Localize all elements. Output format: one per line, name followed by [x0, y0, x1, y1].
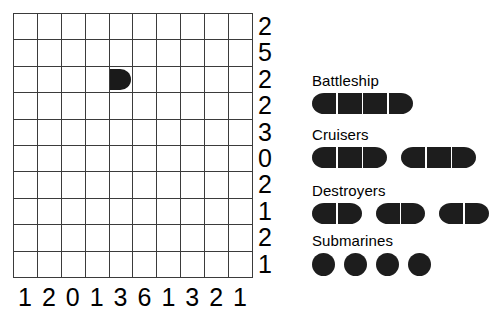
grid-cell-r5-c8[interactable] [205, 145, 229, 171]
grid-cell-r0-c5[interactable] [133, 14, 157, 40]
grid-cell-r8-c1[interactable] [37, 225, 61, 251]
grid-cell-r7-c5[interactable] [133, 198, 157, 224]
grid-cell-r2-c0[interactable] [14, 66, 38, 92]
grid-cell-r7-c4[interactable] [109, 198, 133, 224]
grid-cell-r9-c9[interactable] [229, 251, 253, 277]
grid-cell-r7-c0[interactable] [14, 198, 38, 224]
grid-cell-r2-c1[interactable] [37, 66, 61, 92]
grid-cell-r7-c9[interactable] [229, 198, 253, 224]
grid-cell-r9-c0[interactable] [14, 251, 38, 277]
grid-cell-r6-c2[interactable] [61, 172, 85, 198]
ship-destroyers-2[interactable] [439, 203, 489, 224]
grid-cell-r4-c9[interactable] [229, 119, 253, 145]
grid-cell-r3-c0[interactable] [14, 93, 38, 119]
grid-cell-r5-c9[interactable] [229, 145, 253, 171]
ship-submarines-3[interactable] [408, 253, 431, 276]
ship-submarines-2[interactable] [376, 253, 399, 276]
grid-cell-r9-c6[interactable] [157, 251, 181, 277]
grid-cell-r8-c0[interactable] [14, 225, 38, 251]
grid-cell-r4-c7[interactable] [181, 119, 205, 145]
grid-cell-r9-c2[interactable] [61, 251, 85, 277]
grid-cell-r1-c5[interactable] [133, 40, 157, 66]
grid-cell-r8-c9[interactable] [229, 225, 253, 251]
grid-cell-r8-c2[interactable] [61, 225, 85, 251]
grid-cell-r2-c6[interactable] [157, 66, 181, 92]
grid-cell-r9-c3[interactable] [85, 251, 109, 277]
grid-cell-r0-c3[interactable] [85, 14, 109, 40]
ship-submarines-1[interactable] [344, 253, 367, 276]
grid-cell-r1-c7[interactable] [181, 40, 205, 66]
grid-cell-r4-c2[interactable] [61, 119, 85, 145]
grid-cell-r3-c6[interactable] [157, 93, 181, 119]
grid-cell-r9-c5[interactable] [133, 251, 157, 277]
grid-cell-r6-c0[interactable] [14, 172, 38, 198]
battleship-grid[interactable] [13, 13, 253, 278]
grid-cell-r5-c0[interactable] [14, 145, 38, 171]
grid-cell-r3-c5[interactable] [133, 93, 157, 119]
grid-cell-r0-c9[interactable] [229, 14, 253, 40]
grid-cell-r0-c8[interactable] [205, 14, 229, 40]
grid-cell-r8-c8[interactable] [205, 225, 229, 251]
grid-cell-r1-c2[interactable] [61, 40, 85, 66]
grid-cell-r5-c6[interactable] [157, 145, 181, 171]
grid-cell-r9-c4[interactable] [109, 251, 133, 277]
ship-piece-end-right[interactable] [110, 69, 132, 90]
grid-cell-r3-c3[interactable] [85, 93, 109, 119]
grid-cell-r6-c6[interactable] [157, 172, 181, 198]
grid-cell-r2-c4[interactable] [109, 66, 133, 92]
grid-cell-r1-c1[interactable] [37, 40, 61, 66]
grid-cell-r8-c6[interactable] [157, 225, 181, 251]
grid-cell-r5-c5[interactable] [133, 145, 157, 171]
grid-cell-r0-c6[interactable] [157, 14, 181, 40]
grid-cell-r7-c2[interactable] [61, 198, 85, 224]
grid-cell-r3-c8[interactable] [205, 93, 229, 119]
grid-cell-r3-c1[interactable] [37, 93, 61, 119]
grid-cell-r3-c4[interactable] [109, 93, 133, 119]
grid-cell-r0-c1[interactable] [37, 14, 61, 40]
ship-submarines-0[interactable] [312, 253, 335, 276]
grid-cell-r6-c5[interactable] [133, 172, 157, 198]
grid-cell-r2-c9[interactable] [229, 66, 253, 92]
grid-cell-r6-c1[interactable] [37, 172, 61, 198]
grid-cell-r4-c1[interactable] [37, 119, 61, 145]
grid-cell-r6-c9[interactable] [229, 172, 253, 198]
grid-cell-r9-c8[interactable] [205, 251, 229, 277]
grid-cell-r2-c8[interactable] [205, 66, 229, 92]
grid-cell-r8-c3[interactable] [85, 225, 109, 251]
grid-cell-r4-c6[interactable] [157, 119, 181, 145]
ship-battleship-0[interactable] [312, 93, 413, 114]
grid-cell-r6-c7[interactable] [181, 172, 205, 198]
grid-cell-r1-c0[interactable] [14, 40, 38, 66]
grid-cell-r9-c1[interactable] [37, 251, 61, 277]
grid-cell-r4-c8[interactable] [205, 119, 229, 145]
grid-cell-r7-c6[interactable] [157, 198, 181, 224]
grid-cell-r1-c3[interactable] [85, 40, 109, 66]
grid-cell-r5-c1[interactable] [37, 145, 61, 171]
grid-cell-r8-c7[interactable] [181, 225, 205, 251]
grid-cell-r6-c3[interactable] [85, 172, 109, 198]
grid-cell-r2-c7[interactable] [181, 66, 205, 92]
ship-cruisers-0[interactable] [312, 147, 387, 168]
grid-cell-r5-c7[interactable] [181, 145, 205, 171]
grid-cell-r2-c5[interactable] [133, 66, 157, 92]
grid-cell-r4-c3[interactable] [85, 119, 109, 145]
ship-destroyers-1[interactable] [376, 203, 426, 224]
grid-cell-r3-c9[interactable] [229, 93, 253, 119]
grid-cell-r4-c0[interactable] [14, 119, 38, 145]
grid-cell-r4-c4[interactable] [109, 119, 133, 145]
grid-cell-r7-c8[interactable] [205, 198, 229, 224]
grid-cell-r2-c3[interactable] [85, 66, 109, 92]
grid-cell-r1-c4[interactable] [109, 40, 133, 66]
grid-cell-r7-c7[interactable] [181, 198, 205, 224]
grid-cell-r6-c8[interactable] [205, 172, 229, 198]
grid-cell-r0-c2[interactable] [61, 14, 85, 40]
grid-cell-r8-c4[interactable] [109, 225, 133, 251]
grid-cell-r0-c0[interactable] [14, 14, 38, 40]
grid-cell-r4-c5[interactable] [133, 119, 157, 145]
grid-cell-r7-c1[interactable] [37, 198, 61, 224]
grid-cell-r0-c7[interactable] [181, 14, 205, 40]
grid-cell-r3-c7[interactable] [181, 93, 205, 119]
grid-cell-r8-c5[interactable] [133, 225, 157, 251]
grid-cell-r1-c9[interactable] [229, 40, 253, 66]
grid-cell-r5-c3[interactable] [85, 145, 109, 171]
